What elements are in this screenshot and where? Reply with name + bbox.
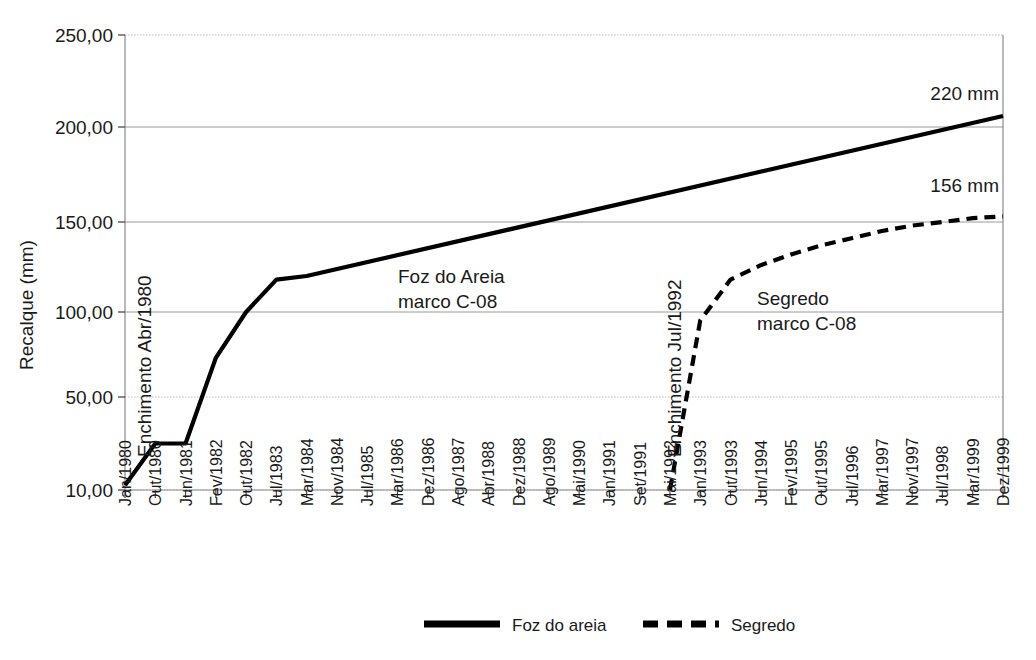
chart-svg: 10,0050,00100,00150,00200,00250,00 Jan/1… [0, 0, 1036, 660]
x-tick-label: Jul/1996 [844, 445, 861, 506]
x-tick-label: Jun/1981 [178, 440, 195, 506]
x-tick-label: Nov/1997 [904, 437, 921, 506]
x-tick-label: Mar/1997 [874, 438, 891, 506]
x-tick-label: Jul/1983 [268, 445, 285, 506]
x-tick-label: Abr/1988 [480, 441, 497, 506]
annotation-segredo-marco-line2: marco C-08 [757, 313, 856, 334]
x-tick-label: Fev/1982 [208, 439, 225, 506]
y-tick-label: 10,00 [65, 480, 113, 501]
x-tick-label: Jul/1998 [934, 445, 951, 506]
annotation-segredo-marco-line1: Segredo [757, 288, 829, 309]
annotation-enchimento-segredo: Enchimento Jul/1992 [664, 280, 685, 457]
y-tick-label: 50,00 [65, 387, 113, 408]
settlement-chart: 10,0050,00100,00150,00200,00250,00 Jan/1… [0, 0, 1036, 660]
x-tick-label: Fev/1995 [783, 439, 800, 506]
x-tick-label: Dez/1986 [420, 437, 437, 506]
x-tick-label: Out/1982 [238, 440, 255, 506]
y-tick-label: 150,00 [55, 212, 113, 233]
annotation-foz-marco-line2: marco C-08 [398, 291, 497, 312]
x-tick-label: Jan/1980 [117, 440, 134, 506]
x-tick-label: Mar/1984 [299, 438, 316, 506]
x-tick-label: Nov/1984 [329, 437, 346, 506]
y-axis-title: Recalque (mm) [16, 240, 37, 370]
x-tick-label: Out/1993 [723, 440, 740, 506]
chart-background [0, 0, 1036, 660]
x-tick-label: Set/1991 [632, 442, 649, 506]
y-tick-label: 250,00 [55, 25, 113, 46]
x-tick-label: Mar/1986 [389, 438, 406, 506]
label-foz-end-value: 220 mm [930, 83, 999, 104]
x-tick-label: Jan/1991 [601, 440, 618, 506]
label-segredo-end-value: 156 mm [930, 175, 999, 196]
x-tick-label: Jun/1994 [753, 440, 770, 506]
x-tick-label: Out/1995 [813, 440, 830, 506]
legend-label-foz: Foz do areia [512, 616, 607, 635]
x-tick-label: Dez/1999 [995, 437, 1012, 506]
y-tick-label: 100,00 [55, 302, 113, 323]
x-tick-label: Mar/1999 [965, 438, 982, 506]
x-tick-label: Ago/1987 [450, 437, 467, 506]
y-tick-label: 200,00 [55, 117, 113, 138]
x-tick-label: Ago/1989 [541, 437, 558, 506]
x-tick-label: Jul/1985 [359, 445, 376, 506]
annotation-enchimento-foz: Enchimento Abr/1980 [134, 275, 155, 457]
x-tick-label: Mai/1990 [571, 440, 588, 506]
annotation-foz-marco-line1: Foz do Areia [398, 266, 505, 287]
x-tick-label: Jan/1993 [692, 440, 709, 506]
legend-label-segredo: Segredo [731, 616, 795, 635]
x-tick-label: Dez/1988 [511, 437, 528, 506]
